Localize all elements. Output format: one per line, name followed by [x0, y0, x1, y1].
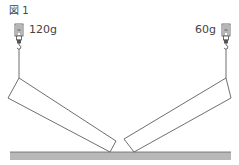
left-spring-scale-icon — [15, 24, 23, 78]
diagram-canvas — [0, 0, 239, 165]
ground-surface — [10, 152, 231, 160]
right-spring-scale-icon — [222, 24, 230, 78]
left-rod — [8, 78, 116, 152]
right-rod — [124, 78, 231, 152]
